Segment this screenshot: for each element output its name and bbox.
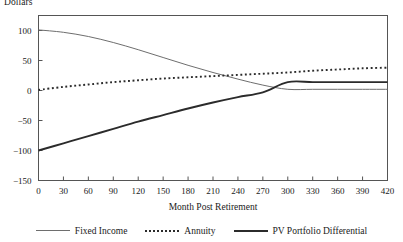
y-tick-label: 100 xyxy=(18,26,32,36)
y-tick-label: −150 xyxy=(13,176,32,186)
tick-label-layer: 100500−50−100−15003060901201501802102402… xyxy=(13,26,395,196)
chart-legend: Fixed Income Annuity PV Portfolio Differ… xyxy=(0,220,403,242)
x-tick-label: 120 xyxy=(131,186,145,196)
x-tick-label: 0 xyxy=(36,186,41,196)
x-tick-label: 420 xyxy=(381,186,395,196)
x-tick-label: 360 xyxy=(331,186,345,196)
x-tick-label: 150 xyxy=(156,186,170,196)
x-tick-label: 90 xyxy=(109,186,119,196)
legend-line-icon-pv-differential xyxy=(234,227,268,235)
legend-line-icon-fixed-income xyxy=(36,227,70,235)
legend-label-annuity: Annuity xyxy=(184,226,215,236)
x-tick-label: 270 xyxy=(256,186,270,196)
x-tick-label: 180 xyxy=(181,186,195,196)
legend-label-pv-differential: PV Portfolio Differential xyxy=(273,226,368,236)
legend-item-fixed-income[interactable]: Fixed Income xyxy=(36,226,128,236)
legend-line-icon-annuity xyxy=(145,227,179,235)
y-tick-label: 50 xyxy=(23,56,33,66)
x-tick-label: 330 xyxy=(306,186,320,196)
x-tick-label: 30 xyxy=(59,186,69,196)
series-line xyxy=(39,30,388,90)
legend-label-fixed-income: Fixed Income xyxy=(75,226,128,236)
series-layer xyxy=(39,30,388,151)
plot-area: 100500−50−100−15003060901201501802102402… xyxy=(0,0,403,220)
y-tick-label: 0 xyxy=(27,86,32,96)
x-tick-label: 60 xyxy=(84,186,94,196)
x-tick-label: 300 xyxy=(281,186,295,196)
x-axis-title: Month Post Retirement xyxy=(169,202,258,212)
y-tick-label: −100 xyxy=(13,146,32,156)
x-tick-label: 210 xyxy=(206,186,220,196)
legend-item-annuity[interactable]: Annuity xyxy=(145,226,215,236)
series-line xyxy=(39,68,388,90)
chart-container: Dollars 100500−50−100−150030609012015018… xyxy=(0,0,403,242)
series-line xyxy=(39,81,388,150)
x-tick-label: 390 xyxy=(356,186,370,196)
y-tick-label: −50 xyxy=(17,116,32,126)
legend-item-pv-portfolio-differential[interactable]: PV Portfolio Differential xyxy=(234,226,368,236)
x-tick-label: 240 xyxy=(231,186,245,196)
axes-layer xyxy=(39,16,388,181)
